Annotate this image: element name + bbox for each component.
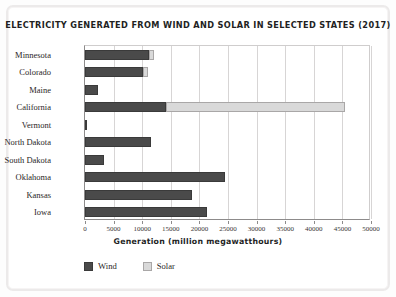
bar-segment-wind[interactable]	[85, 85, 98, 95]
chart-title: ELECTRICITY GENERATED FROM WIND AND SOLA…	[0, 20, 396, 30]
x-axis-tick-label: 25000	[219, 225, 237, 233]
x-axis-tick-label: 35000	[276, 225, 294, 233]
y-axis-tick-label: Maine	[0, 85, 51, 95]
bar-row[interactable]	[85, 67, 148, 77]
bar-row[interactable]	[85, 190, 192, 200]
x-axis-tick-label: 5000	[107, 225, 121, 233]
legend-item-solar[interactable]: Solar	[143, 261, 175, 271]
y-axis-tick-label: North Dakota	[0, 137, 51, 147]
chart-page: ELECTRICITY GENERATED FROM WIND AND SOLA…	[0, 0, 396, 297]
y-axis-tick-label: South Dakota	[0, 155, 51, 165]
y-axis-tick-label: Vermont	[0, 120, 51, 130]
x-axis-title: Generation (million megawatthours)	[0, 237, 396, 246]
bar-row[interactable]	[85, 207, 207, 217]
bar-segment-solar[interactable]	[166, 102, 345, 112]
bar-series-container	[85, 46, 369, 219]
bar-segment-wind[interactable]	[85, 207, 207, 217]
x-axis-tick-label: 40000	[305, 225, 323, 233]
bar-segment-wind[interactable]	[85, 120, 87, 130]
x-axis-tick-mark	[199, 221, 200, 224]
y-axis-tick-label: Oklahoma	[0, 172, 51, 182]
x-axis-tick-label: 30000	[248, 225, 266, 233]
x-axis-tick-mark	[228, 221, 229, 224]
bar-row[interactable]	[85, 50, 154, 60]
x-axis-tick-label: 10000	[133, 225, 151, 233]
x-axis-tick-mark	[257, 221, 258, 224]
bar-segment-wind[interactable]	[85, 67, 143, 77]
bar-row[interactable]	[85, 120, 87, 130]
plot-area: MinnesotaColoradoMaineCaliforniaVermontN…	[84, 45, 370, 220]
bar-segment-wind[interactable]	[85, 102, 166, 112]
x-axis-tick-mark	[114, 221, 115, 224]
bar-row[interactable]	[85, 155, 104, 165]
bar-segment-wind[interactable]	[85, 172, 225, 182]
x-axis-tick-mark	[85, 221, 86, 224]
bar-segment-solar[interactable]	[143, 67, 148, 77]
legend-label: Solar	[157, 261, 175, 271]
legend-item-wind[interactable]: Wind	[84, 261, 117, 271]
x-axis-tick-mark	[314, 221, 315, 224]
x-axis-tick-label: 20000	[191, 225, 209, 233]
bar-row[interactable]	[85, 85, 98, 95]
x-axis-tick-label: 50000	[362, 225, 380, 233]
bar-row[interactable]	[85, 102, 345, 112]
bar-row[interactable]	[85, 137, 151, 147]
legend-label: Wind	[98, 261, 117, 271]
x-axis-tick-mark	[371, 221, 372, 224]
chart-legend: WindSolar	[84, 261, 370, 271]
x-axis-tick-mark	[342, 221, 343, 224]
y-axis-tick-label: California	[0, 102, 51, 112]
y-axis-tick-label: Minnesota	[0, 50, 51, 60]
bar-segment-wind[interactable]	[85, 50, 149, 60]
bar-segment-wind[interactable]	[85, 190, 192, 200]
y-axis-tick-label: Colorado	[0, 67, 51, 77]
x-axis-tick-label: 0	[83, 225, 87, 233]
legend-swatch-solar	[143, 262, 152, 271]
x-axis-tick-label: 15000	[162, 225, 180, 233]
legend-swatch-wind	[84, 262, 93, 271]
x-axis-tick-mark	[171, 221, 172, 224]
gridline	[371, 46, 372, 219]
bar-row[interactable]	[85, 172, 225, 182]
bar-segment-wind[interactable]	[85, 155, 104, 165]
bar-segment-solar[interactable]	[149, 50, 154, 60]
y-axis-tick-label: Iowa	[0, 207, 51, 217]
x-axis-tick-mark	[285, 221, 286, 224]
y-axis-tick-label: Kansas	[0, 190, 51, 200]
bar-segment-wind[interactable]	[85, 137, 151, 147]
x-axis-tick-label: 45000	[334, 225, 352, 233]
x-axis-tick-mark	[142, 221, 143, 224]
